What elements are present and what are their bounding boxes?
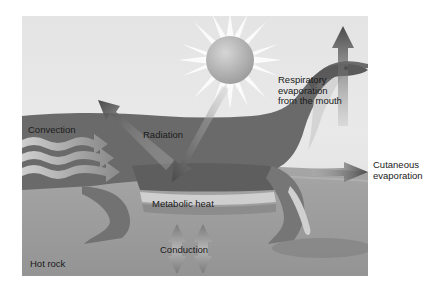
sun-icon xyxy=(206,36,254,84)
respiratory-evaporation-label: Respiratory evaporation from the mouth xyxy=(278,75,342,107)
conduction-label: Conduction xyxy=(160,245,208,256)
hot-rock-label: Hot rock xyxy=(30,259,65,270)
metabolic-heat-band xyxy=(132,163,274,192)
metabolic-heat-label: Metabolic heat xyxy=(152,199,214,210)
cutaneous-evaporation-label: Cutaneous evaporation xyxy=(373,160,423,181)
convection-label: Convection xyxy=(28,125,76,136)
radiation-label: Radiation xyxy=(143,130,183,141)
diagram-artwork xyxy=(22,16,368,276)
diagram-panel: Convection Radiation Respiratory evapora… xyxy=(22,16,368,276)
